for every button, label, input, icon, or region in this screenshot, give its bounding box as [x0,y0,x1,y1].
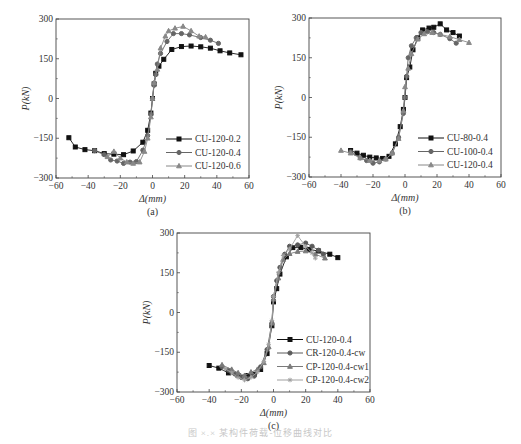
y-axis-label: P(kN) [273,85,285,111]
y-tick-label: 0 [48,94,53,104]
data-point-marker [179,31,183,35]
x-tick-label: 60 [496,180,506,190]
data-point-marker [236,370,241,374]
y-axis-ticks: −300−1500150300 [286,13,312,182]
y-tick-label: 150 [39,54,54,64]
legend-item: CU-120-0.2 [166,134,241,144]
x-tick-label: −40 [81,181,96,191]
data-point-marker [218,49,222,53]
x-tick-label: −40 [334,180,349,190]
legend-item: CR-120-0.4-cw [277,348,366,358]
data-point-marker [179,45,183,49]
data-point-marker [403,95,407,99]
data-point-marker [166,28,171,32]
y-axis-ticks: −300−1500150300 [154,228,180,397]
data-point-marker [432,25,436,29]
x-axis-label: Δ(mm) [391,192,420,204]
legend-label: CP-120-0.4-cw1 [306,362,369,372]
legend-label: CU-120-0.4 [306,335,352,345]
data-point-marker [189,44,193,48]
series-line [225,236,315,380]
x-axis-label: Δ(mm) [259,407,288,419]
data-point-marker [197,34,202,38]
legend-label: CU-120-0.6 [195,161,241,171]
data-point-marker [216,41,220,45]
data-point-marker [316,248,320,252]
legend-marker [429,162,434,166]
data-point-marker [170,47,174,51]
y-tick-label: 0 [301,93,306,103]
data-point-marker [162,57,166,61]
data-point-marker [122,153,126,157]
x-tick-label: 60 [365,395,375,405]
data-point-marker [406,56,410,60]
data-point-marker [403,84,408,88]
legend-marker [288,351,292,355]
x-tick-label: 60 [244,181,254,191]
x-tick-label: 40 [333,395,343,405]
data-point-marker [208,46,212,50]
x-axis-ticks: −60−40−200204060 [302,174,506,190]
legend: CU-120-0.2CU-120-0.4CU-120-0.6 [166,134,241,171]
legend-item: CU-100-0.4 [418,147,493,157]
figure-canvas: −60−40−200204060−300−1500150300Δ(mm)P(kN… [0,0,521,444]
data-point-marker [438,22,442,26]
legend-marker [177,137,181,141]
data-point-marker [187,33,191,37]
x-tick-label: 40 [464,180,474,190]
legend-item: CU-120-0.6 [166,161,241,171]
legend-marker [288,338,292,342]
x-tick-label: 0 [403,180,408,190]
data-point-marker [339,148,344,152]
data-point-marker [189,28,194,32]
data-point-marker [287,251,292,255]
data-point-marker [328,252,332,256]
data-point-marker [83,148,87,152]
data-point-marker [451,31,455,35]
y-tick-label: 0 [169,308,174,318]
legend-marker [429,136,433,140]
x-axis-label: Δ(mm) [138,193,167,205]
y-tick-label: 150 [292,53,307,63]
data-point-marker [249,370,254,374]
x-tick-label: 20 [180,181,190,191]
legend-item: CU-80-0.4 [418,133,488,143]
x-axis-ticks: −60−40−200204060 [49,175,254,191]
data-point-marker [228,51,232,55]
data-point-marker [73,145,77,149]
panel-label: (a) [147,206,158,218]
x-tick-label: −40 [202,395,217,405]
data-point-marker [239,53,243,57]
legend-marker [288,364,293,368]
x-tick-label: 20 [301,395,311,405]
chart-panel-a: −60−40−200204060−300−1500150300Δ(mm)P(kN… [20,14,254,218]
legend-label: CU-120-0.2 [195,134,241,144]
y-axis-ticks: −300−1500150300 [33,14,59,183]
data-point-marker [199,45,203,49]
data-point-marker [409,44,413,48]
data-point-marker [158,46,163,50]
data-point-marker [445,28,449,32]
legend-marker [429,149,433,153]
legend-marker [177,150,181,154]
series-cu-100-0.4 [349,30,459,166]
legend-item: CP-120-0.4-cw1 [277,362,369,372]
data-point-marker [93,149,97,153]
y-tick-label: −150 [286,132,306,142]
y-tick-label: −300 [286,172,306,182]
legend-label: CU-120-0.4 [447,160,493,170]
figure-caption: 图 ×.× 某构件荷载-位移曲线对比 [0,426,521,439]
chart-panel-c: −60−40−200204060−300−1500150300Δ(mm)P(kN… [141,228,375,432]
y-tick-label: 300 [160,228,175,238]
data-point-marker [336,256,340,260]
legend: CU-120-0.4CR-120-0.4-cwCP-120-0.4-cw1CP-… [277,335,369,386]
data-point-marker [467,40,472,44]
data-point-marker [141,140,145,144]
x-tick-label: 0 [150,181,155,191]
data-point-marker [181,24,186,28]
data-point-marker [112,149,117,153]
x-tick-label: −20 [366,180,381,190]
legend: CU-80-0.4CU-100-0.4CU-120-0.4 [418,133,493,170]
series-cu-120-0.4 [93,31,221,165]
y-tick-label: −150 [33,133,53,143]
